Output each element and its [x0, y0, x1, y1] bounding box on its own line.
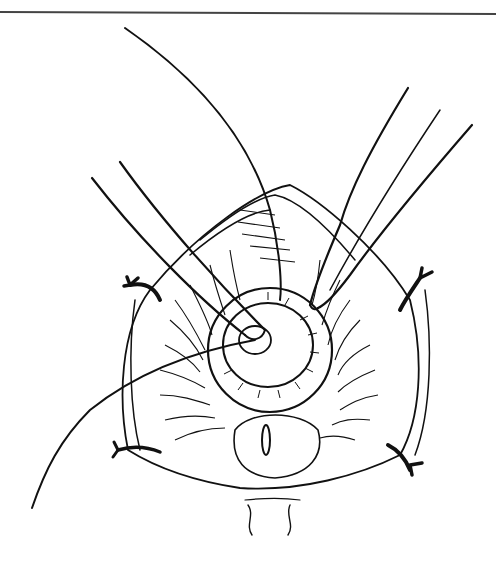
- forceps-right: [310, 88, 472, 309]
- stay-suture-top-left: [124, 277, 160, 300]
- illustration-canvas: Surgical line illustration: dilated circ…: [0, 0, 496, 572]
- circular-opening: [208, 288, 332, 412]
- top-rule: [0, 12, 496, 14]
- slit: [262, 425, 270, 455]
- surgical-illustration: [0, 0, 496, 572]
- lower-mound: [234, 415, 320, 535]
- suture-thread: [32, 28, 281, 508]
